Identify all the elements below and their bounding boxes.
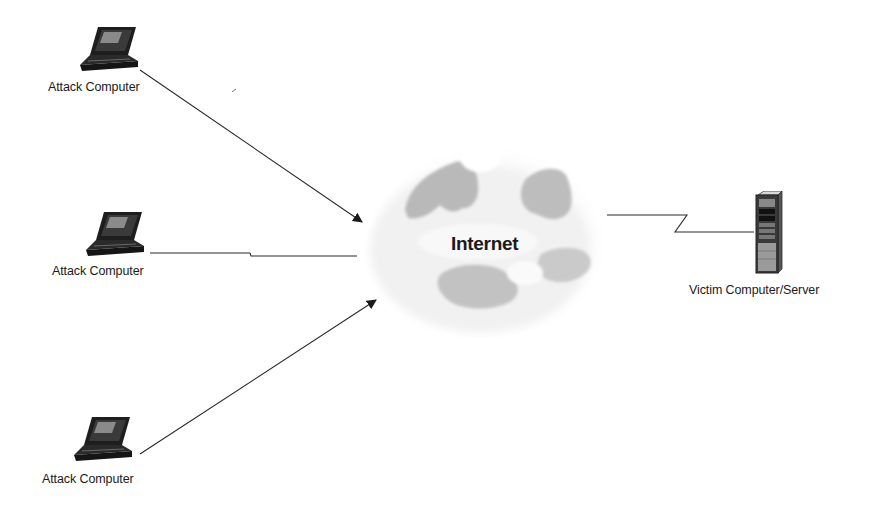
server-tower-icon [752,191,784,275]
attacker-1-node [78,25,148,79]
attacker-3-label: Attack Computer [42,472,134,486]
stray-mark [232,89,236,92]
edge-attacker-3-internet [140,300,376,454]
edge-attacker-2-internet [150,253,357,256]
laptop-icon [72,415,142,465]
attacker-1-label: Attack Computer [48,80,140,94]
victim-label: Victim Computer/Server [689,283,819,297]
attacker-3-node [72,415,142,469]
edge-attacker-1-internet [140,70,362,222]
internet-label: Internet [451,233,518,255]
attacker-2-node [84,210,154,264]
laptop-icon [84,210,154,260]
ddos-diagram: Attack Computer Attack Computer Attack C… [0,0,891,516]
attacker-2-label: Attack Computer [52,264,144,278]
victim-node [752,191,784,279]
laptop-icon [78,25,148,75]
edge-internet-victim [607,215,754,232]
